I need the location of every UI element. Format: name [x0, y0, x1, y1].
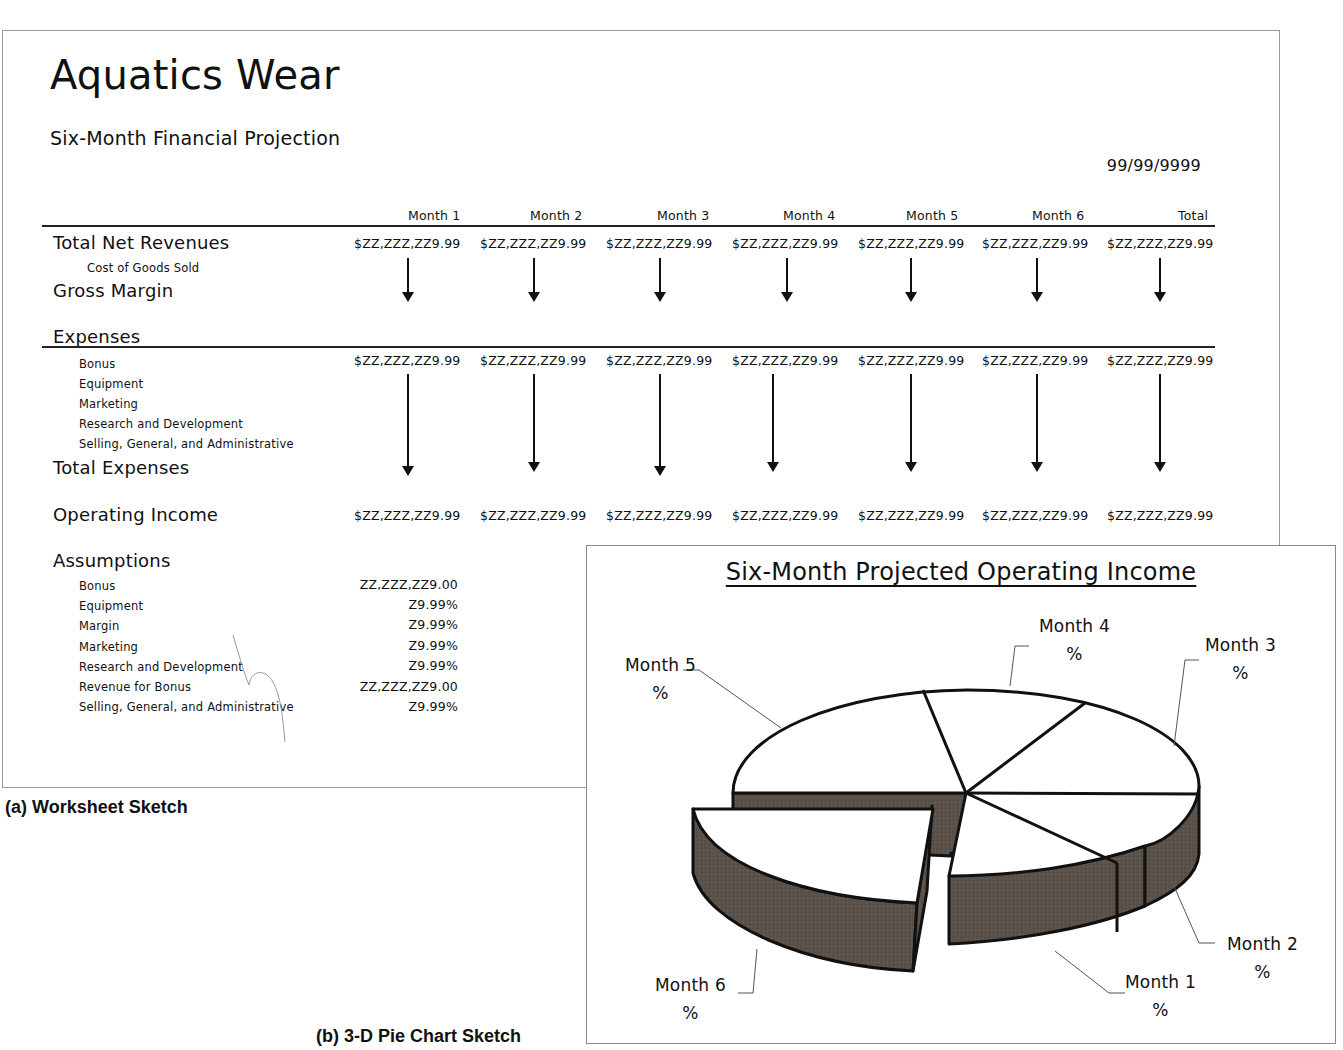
expense-item-bonus: Bonus — [79, 357, 116, 371]
assumption-value: Z9.99% — [409, 699, 458, 714]
assumption-value: Z9.99% — [409, 658, 458, 673]
down-arrow-icon — [659, 374, 661, 468]
pie-chart-graphic — [587, 546, 1335, 1043]
pencil-scribble — [225, 630, 295, 745]
assumption-label: Revenue for Bonus — [79, 680, 191, 694]
pie-label-month-3: Month 3% — [1205, 631, 1276, 687]
expense-value-month-6: $ZZ,ZZZ,ZZ9.99 — [982, 353, 1088, 368]
expense-item-sga: Selling, General, and Administrative — [79, 437, 294, 451]
caption-worksheet-sketch: (a) Worksheet Sketch — [5, 797, 188, 818]
cogs-label: Cost of Goods Sold — [87, 261, 199, 275]
assumption-value: ZZ,ZZZ,ZZ9.00 — [360, 679, 458, 694]
down-arrow-icon — [533, 374, 535, 464]
expense-value-month-5: $ZZ,ZZZ,ZZ9.99 — [858, 353, 964, 368]
total-expenses-label: Total Expenses — [53, 457, 189, 478]
header-rule — [42, 225, 1215, 227]
assumption-label: Marketing — [79, 640, 138, 654]
expense-item-marketing: Marketing — [79, 397, 138, 411]
col-header-month-3: Month 3 — [657, 208, 710, 223]
expense-value-month-4: $ZZ,ZZZ,ZZ9.99 — [732, 353, 838, 368]
assumption-value: Z9.99% — [409, 638, 458, 653]
down-arrow-icon — [786, 258, 788, 294]
caption-pie-chart-sketch: (b) 3-D Pie Chart Sketch — [316, 1026, 521, 1047]
revenue-value-month-3: $ZZ,ZZZ,ZZ9.99 — [606, 236, 712, 251]
expense-value-month-2: $ZZ,ZZZ,ZZ9.99 — [480, 353, 586, 368]
pie-label-month-1: Month 1% — [1125, 968, 1196, 1024]
revenue-value-month-6: $ZZ,ZZZ,ZZ9.99 — [982, 236, 1088, 251]
assumptions-heading: Assumptions — [53, 550, 171, 571]
assumption-label: Margin — [79, 619, 119, 633]
col-header-month-2: Month 2 — [530, 208, 583, 223]
revenue-value-total: $ZZ,ZZZ,ZZ9.99 — [1107, 236, 1213, 251]
operating-income-month-2: $ZZ,ZZZ,ZZ9.99 — [480, 508, 586, 523]
revenue-value-month-2: $ZZ,ZZZ,ZZ9.99 — [480, 236, 586, 251]
pie-label-month-5: Month 5% — [625, 651, 696, 707]
total-net-revenues-label: Total Net Revenues — [53, 232, 229, 253]
pie-chart-sketch: Six-Month Projected Operating Income — [586, 545, 1336, 1044]
down-arrow-icon — [407, 374, 409, 468]
assumption-label: Research and Development — [79, 660, 243, 674]
assumption-value: Z9.99% — [409, 617, 458, 632]
col-header-month-1: Month 1 — [408, 208, 461, 223]
col-header-total: Total — [1178, 208, 1208, 223]
operating-income-month-4: $ZZ,ZZZ,ZZ9.99 — [732, 508, 838, 523]
down-arrow-icon — [772, 374, 774, 464]
down-arrow-icon — [659, 258, 661, 294]
pie-label-month-2: Month 2% — [1227, 930, 1298, 986]
col-header-month-5: Month 5 — [906, 208, 959, 223]
revenue-value-month-1: $ZZ,ZZZ,ZZ9.99 — [354, 236, 460, 251]
down-arrow-icon — [910, 374, 912, 464]
down-arrow-icon — [1159, 258, 1161, 294]
revenue-value-month-4: $ZZ,ZZZ,ZZ9.99 — [732, 236, 838, 251]
down-arrow-icon — [533, 258, 535, 294]
pie-label-month-4: Month 4% — [1039, 612, 1110, 668]
expense-value-total: $ZZ,ZZZ,ZZ9.99 — [1107, 353, 1213, 368]
assumption-value: ZZ,ZZZ,ZZ9.00 — [360, 577, 458, 592]
expense-value-month-3: $ZZ,ZZZ,ZZ9.99 — [606, 353, 712, 368]
expense-value-month-1: $ZZ,ZZZ,ZZ9.99 — [354, 353, 460, 368]
expenses-rule — [42, 346, 1215, 348]
operating-income-month-6: $ZZ,ZZZ,ZZ9.99 — [982, 508, 1088, 523]
worksheet-subtitle: Six-Month Financial Projection — [50, 127, 340, 149]
col-header-month-4: Month 4 — [783, 208, 836, 223]
expense-item-equipment: Equipment — [79, 377, 143, 391]
operating-income-label: Operating Income — [53, 504, 218, 525]
down-arrow-icon — [1036, 258, 1038, 294]
assumption-label: Bonus — [79, 579, 116, 593]
expense-item-research-development: Research and Development — [79, 417, 243, 431]
down-arrow-icon — [407, 258, 409, 294]
revenue-value-month-5: $ZZ,ZZZ,ZZ9.99 — [858, 236, 964, 251]
col-header-month-6: Month 6 — [1032, 208, 1085, 223]
operating-income-month-1: $ZZ,ZZZ,ZZ9.99 — [354, 508, 460, 523]
expenses-heading: Expenses — [53, 326, 140, 347]
gross-margin-label: Gross Margin — [53, 280, 173, 301]
operating-income-month-3: $ZZ,ZZZ,ZZ9.99 — [606, 508, 712, 523]
worksheet-title: Aquatics Wear — [50, 52, 340, 98]
assumption-value: Z9.99% — [409, 597, 458, 612]
operating-income-month-5: $ZZ,ZZZ,ZZ9.99 — [858, 508, 964, 523]
pie-label-month-6: Month 6% — [655, 971, 726, 1027]
assumption-label: Equipment — [79, 599, 143, 613]
operating-income-total: $ZZ,ZZZ,ZZ9.99 — [1107, 508, 1213, 523]
down-arrow-icon — [910, 258, 912, 294]
down-arrow-icon — [1159, 374, 1161, 464]
worksheet-date: 99/99/9999 — [1107, 156, 1201, 175]
down-arrow-icon — [1036, 374, 1038, 464]
